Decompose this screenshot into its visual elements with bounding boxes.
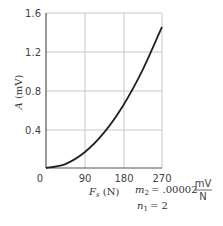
n1-annotation: n1= 2 [137, 200, 168, 213]
chart-canvas: 1.6 1.2 0.8 0.4 0 90 180 270 A (mV) Fs (… [0, 0, 223, 226]
m2-symbol: m [135, 184, 144, 195]
m2-subscript: 2 [144, 189, 148, 197]
m2-unit-denominator: N [199, 191, 206, 202]
n1-value: = 2 [150, 200, 168, 211]
x-tick-270: 270 [152, 173, 171, 184]
y-tick-0.8: 0.8 [25, 86, 41, 97]
n1-subscript: 1 [143, 205, 147, 213]
grid [46, 13, 162, 168]
m2-annotation: m2= .00002 [135, 184, 198, 197]
data-curve [46, 27, 162, 168]
x-tick-90: 90 [79, 173, 92, 184]
y-tick-1.2: 1.2 [25, 47, 41, 58]
y-tick-0.4: 0.4 [25, 125, 41, 136]
m2-unit-numerator: mV [195, 178, 212, 189]
x-axis-label: Fs (N) [88, 186, 119, 199]
y-axis-label-unit: (mV) [13, 74, 24, 102]
y-axis-label-main: A [13, 102, 24, 110]
m2-value: = .00002 [151, 184, 198, 195]
y-axis-label: A (mV) [13, 74, 24, 110]
origin-label: 0 [37, 173, 43, 184]
y-tick-1.6: 1.6 [25, 8, 41, 19]
x-axis-label-unit: (N) [100, 186, 120, 197]
x-tick-180: 180 [114, 173, 133, 184]
